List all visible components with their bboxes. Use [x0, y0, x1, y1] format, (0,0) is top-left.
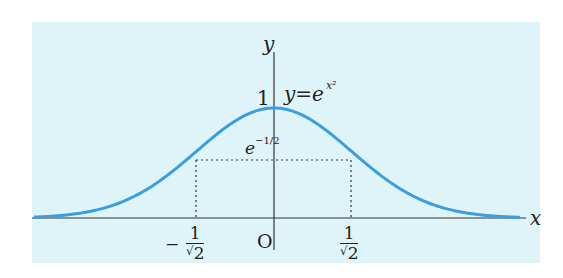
level-label: e−1/2 [245, 139, 280, 157]
sqrt-icon: √ [186, 244, 194, 258]
left-tick-numerator: 1 [187, 225, 204, 242]
origin-label: O [257, 232, 273, 251]
right-tick-numerator: 1 [341, 225, 358, 242]
gaussian-graph [0, 0, 563, 278]
left-tick-fraction: 1 √2 [186, 225, 204, 262]
left-tick-denominator: 2 [194, 243, 205, 263]
function-label: y=ex² [284, 84, 337, 104]
level-label-base: e [245, 138, 255, 158]
left-tick-sign: − [165, 236, 179, 253]
sqrt-icon: √ [340, 244, 348, 258]
y-axis-label: y [263, 34, 274, 54]
right-tick-fraction: 1 √2 [340, 225, 358, 262]
function-label-base: y=e [284, 82, 324, 106]
function-label-exponent: x² [326, 79, 337, 92]
gaussian-curve [34, 108, 520, 217]
x-axis-label: x [530, 208, 541, 228]
level-label-exponent: −1/2 [255, 135, 279, 146]
y-tick-one: 1 [257, 88, 270, 108]
right-tick-denominator: 2 [348, 243, 359, 263]
